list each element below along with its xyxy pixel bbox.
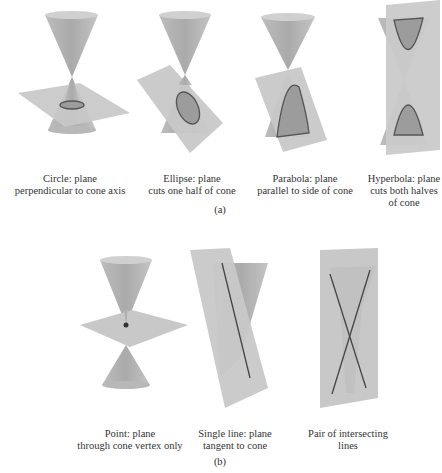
caption-intersecting-lines: Pair of intersecting lines	[293, 428, 403, 452]
figure-parabola	[255, 5, 340, 155]
caption-line: Ellipse: plane	[142, 173, 242, 185]
caption-ellipse: Ellipse: plane cuts one half of cone	[142, 173, 242, 197]
figure-ellipse	[135, 5, 225, 155]
circle-section	[60, 101, 84, 109]
cutting-plane	[80, 310, 188, 347]
caption-line: Circle: plane	[0, 173, 140, 185]
caption-line: parallel to side of cone	[250, 185, 360, 197]
figure-hyperbola	[378, 0, 442, 155]
caption-line: cuts both halves	[362, 185, 442, 197]
panel-a-label: (a)	[190, 204, 250, 215]
caption-single-line: Single line: plane tangent to cone	[185, 428, 285, 452]
upper-cone	[45, 15, 98, 77]
caption-line: lines	[293, 440, 403, 452]
figure-intersecting-lines	[318, 248, 383, 408]
caption-line: through cone vertex only	[70, 440, 190, 452]
caption-line: Hyperbola: plane	[362, 173, 442, 185]
caption-line: cuts one half of cone	[142, 185, 242, 197]
caption-line: tangent to cone	[185, 440, 285, 452]
caption-line: Parabola: plane	[250, 173, 360, 185]
figure-point	[80, 255, 190, 390]
panel-b-label: (b)	[190, 456, 250, 467]
caption-line: Point: plane	[70, 428, 190, 440]
caption-point: Point: plane through cone vertex only	[70, 428, 190, 452]
caption-circle: Circle: plane perpendicular to cone axis	[0, 173, 140, 197]
caption-line: of cone	[362, 197, 442, 209]
caption-line: Pair of intersecting	[293, 428, 403, 440]
figure-single-line	[190, 248, 270, 408]
caption-parabola: Parabola: plane parallel to side of cone	[250, 173, 360, 197]
point-section	[124, 323, 129, 328]
caption-hyperbola: Hyperbola: plane cuts both halves of con…	[362, 173, 442, 209]
figure-circle	[10, 5, 135, 145]
caption-line: Single line: plane	[185, 428, 285, 440]
caption-line: perpendicular to cone axis	[0, 185, 140, 197]
